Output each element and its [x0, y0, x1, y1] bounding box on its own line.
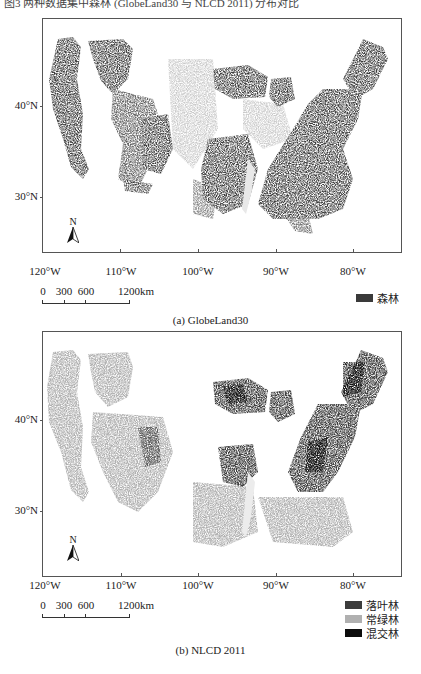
map-b-north-arrow: N	[65, 534, 81, 561]
map-a-lat-40n: 40°N	[0, 99, 38, 111]
legend-label-mixed: 混交林	[366, 625, 399, 641]
scale-label-300: 300	[56, 599, 73, 611]
map-a-lon-80w: 80°W	[340, 265, 366, 277]
map-a-frame	[42, 18, 402, 253]
map-a-north-arrow: N	[65, 216, 81, 243]
map-a-forest-distribution	[43, 19, 401, 252]
map-a-lon-tick-110	[120, 249, 121, 252]
scale-tick	[42, 614, 43, 618]
map-a-caption: (a) GlobeLand30	[0, 314, 421, 326]
map-b-lon-tick-110	[121, 573, 122, 576]
map-b-lon-100w: 100°W	[182, 579, 213, 591]
legend-label-forest: 森林	[377, 290, 399, 306]
map-a-lon-tick-80	[353, 249, 354, 252]
map-a-north-label: N	[69, 216, 76, 227]
map-b-lon-tick-80	[353, 573, 354, 576]
scale-label-1200km: 1200km	[118, 285, 154, 297]
scale-tick	[64, 614, 65, 618]
scale-tick	[85, 614, 86, 618]
scale-label-300: 300	[56, 285, 73, 297]
map-b-lon-tick-100	[198, 573, 199, 576]
map-a-lon-110w: 110°W	[106, 265, 137, 277]
truncated-header-text: 图3 两种数据集中森林 (GlobeLand30 与 NLCD 2011) 分布…	[4, 0, 299, 10]
map-b-legend: 落叶林 常绿林 混交林	[345, 598, 399, 640]
legend-swatch-forest	[356, 294, 373, 302]
map-b-lat-30n: 30°N	[0, 504, 38, 516]
scale-label-0: 0	[40, 285, 46, 297]
legend-item-evergreen: 常绿林	[345, 612, 399, 626]
map-a-lat-tick-40	[40, 106, 43, 107]
legend-swatch-deciduous	[345, 601, 362, 609]
scale-label-600: 600	[78, 599, 95, 611]
map-b-lon-110w: 110°W	[106, 579, 137, 591]
map-b-lon-80w: 80°W	[340, 579, 366, 591]
map-a-lat-tick-30	[40, 197, 43, 198]
map-b-scale-bar: 0 300 600 1200km	[42, 599, 142, 625]
map-b-lat-tick-40	[40, 420, 43, 421]
map-a-lon-120w: 120°W	[29, 265, 60, 277]
north-arrow-icon	[67, 227, 79, 243]
map-a-lon-90w: 90°W	[263, 265, 289, 277]
map-b-lat-40n: 40°N	[0, 413, 38, 425]
map-a-lon-100w: 100°W	[182, 265, 213, 277]
map-b-lon-tick-90	[276, 573, 277, 576]
scale-tick	[42, 300, 43, 304]
legend-item-forest: 森林	[356, 291, 399, 305]
map-b-north-label: N	[69, 534, 76, 545]
scale-tick	[64, 300, 65, 304]
scale-label-0: 0	[40, 599, 46, 611]
map-b-forest-type-distribution	[43, 332, 401, 576]
north-arrow-icon	[67, 545, 79, 561]
map-b-lon-120w: 120°W	[29, 579, 60, 591]
map-a-lon-tick-100	[198, 249, 199, 252]
map-a-lon-tick-90	[276, 249, 277, 252]
scale-tick	[129, 300, 130, 304]
scale-tick	[85, 300, 86, 304]
map-a-legend: 森林	[356, 291, 399, 305]
legend-swatch-mixed	[345, 629, 362, 637]
map-a-lat-30n: 30°N	[0, 190, 38, 202]
scale-label-600: 600	[78, 285, 95, 297]
map-b-lon-90w: 90°W	[263, 579, 289, 591]
legend-item-mixed: 混交林	[345, 626, 399, 640]
map-b-caption: (b) NLCD 2011	[0, 644, 421, 656]
scale-tick	[129, 614, 130, 618]
legend-swatch-evergreen	[345, 615, 362, 623]
map-b-lat-tick-30	[40, 511, 43, 512]
scale-label-1200km: 1200km	[118, 599, 154, 611]
map-b-frame	[42, 331, 402, 577]
map-a-scale-bar: 0 300 600 1200km	[42, 285, 142, 311]
legend-item-deciduous: 落叶林	[345, 598, 399, 612]
